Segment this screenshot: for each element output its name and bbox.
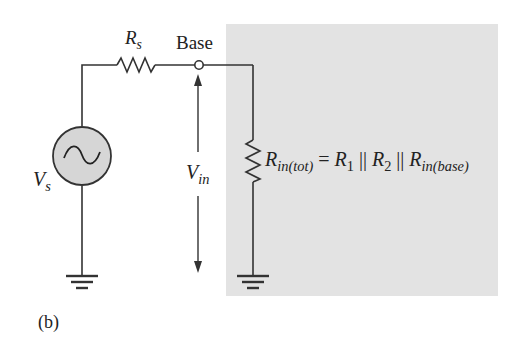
- wire-left: [82, 65, 117, 126]
- label-vin-main: V: [186, 161, 198, 183]
- eq-equals: =: [313, 148, 334, 170]
- label-vs-sub: s: [45, 178, 51, 194]
- eq-parallel: ||: [354, 148, 372, 170]
- label-base: Base: [176, 32, 213, 54]
- base-node: [195, 61, 203, 69]
- eq-term: R: [334, 148, 346, 170]
- resistor-rs: [117, 58, 155, 72]
- eq-parallel: ||: [391, 148, 409, 170]
- label-rs: Rs: [125, 27, 142, 49]
- eq-term: R: [372, 148, 384, 170]
- eq-term: R: [409, 148, 421, 170]
- eq-sub: in(base): [422, 158, 469, 174]
- label-rs-sub: s: [137, 37, 142, 52]
- ground-icon-left: [66, 276, 98, 288]
- label-vs: Vs: [33, 168, 51, 191]
- eq-term: R: [265, 148, 277, 170]
- eq-sub: 1: [347, 158, 354, 174]
- equation-rin-tot: Rin(tot) = R1 || R2 || Rin(base): [265, 148, 469, 171]
- eq-sub: in(tot): [277, 158, 313, 174]
- label-rs-main: R: [125, 27, 137, 48]
- label-vin: Vin: [186, 161, 209, 184]
- label-vin-sub: in: [198, 171, 209, 187]
- label-vs-main: V: [33, 168, 45, 190]
- caption: (b): [38, 312, 59, 333]
